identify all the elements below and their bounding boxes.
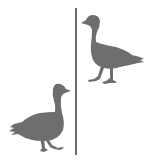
goose-bottom-left-icon <box>9 84 71 152</box>
goose-top-right-icon <box>81 15 144 84</box>
goose-illustration <box>0 0 152 166</box>
illustration-canvas <box>0 0 152 166</box>
